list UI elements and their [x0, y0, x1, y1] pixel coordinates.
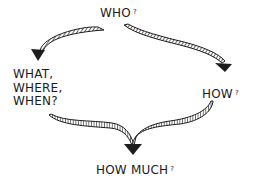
- node-who: WHO?: [100, 6, 137, 20]
- node-how-much-question-mark: ?: [170, 165, 174, 173]
- diagram-canvas: WHO? WHAT, WHERE, WHEN? HOW? HOW MUCH?: [0, 0, 257, 186]
- node-how-question-mark: ?: [235, 89, 239, 97]
- node-what-line: WHAT,: [13, 68, 62, 82]
- node-how: HOW?: [202, 87, 239, 101]
- node-how-much: HOW MUCH?: [96, 163, 174, 177]
- arrow-merge-to-how-much: [49, 101, 213, 155]
- arrow-who-to-how: [124, 24, 232, 72]
- node-who-question-mark: ?: [133, 8, 137, 16]
- node-who-text: WHO: [100, 6, 131, 20]
- node-where-line: WHERE,: [13, 82, 62, 96]
- node-when-line: WHEN?: [13, 95, 62, 109]
- arrow-who-to-what: [31, 27, 104, 61]
- node-what-where-when: WHAT, WHERE, WHEN?: [13, 68, 62, 109]
- node-how-text: HOW: [202, 87, 233, 101]
- node-how-much-text: HOW MUCH: [96, 163, 168, 177]
